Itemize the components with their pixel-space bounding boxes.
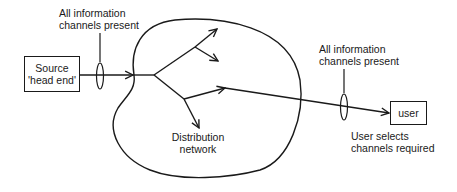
left-channels-ellipse	[97, 63, 104, 89]
label-left-channels: All information channels present	[59, 7, 139, 31]
label-network-line2: network	[168, 143, 228, 155]
lower-branch-arrow-right	[184, 88, 225, 99]
user-feed-line	[225, 88, 389, 113]
upper-branch-arrow-a	[195, 29, 217, 47]
label-left-line1: All information	[59, 7, 139, 19]
label-network-line1: Distribution	[168, 131, 228, 143]
source-box-line1: Source	[35, 62, 68, 74]
label-distribution-network: Distribution network	[168, 131, 228, 155]
source-box-line2: 'head end'	[28, 74, 76, 86]
label-user-selects: User selects channels required	[351, 130, 434, 154]
label-right-line1: All information	[319, 43, 399, 55]
user-box: user	[390, 101, 427, 125]
label-user-line2: channels required	[351, 142, 434, 154]
label-right-channels: All information channels present	[319, 43, 399, 67]
user-box-label: user	[398, 107, 418, 119]
lower-branch-arrow-down	[184, 99, 199, 128]
label-left-line2: channels present	[59, 19, 139, 31]
label-right-line2: channels present	[319, 55, 399, 67]
upper-branch-arrow-b	[195, 47, 218, 61]
upper-branch	[154, 47, 195, 75]
source-box: Source 'head end'	[24, 56, 80, 92]
label-user-line1: User selects	[351, 130, 434, 142]
lower-branch	[154, 75, 184, 99]
